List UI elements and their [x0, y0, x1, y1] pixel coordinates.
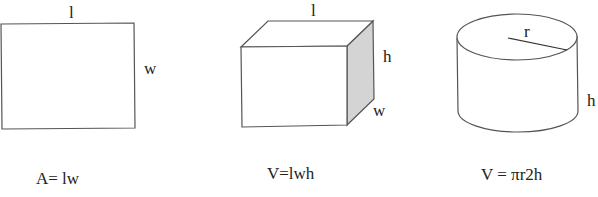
prism-width-label: w	[373, 101, 386, 120]
cylinder-figure: r h V = πr2h	[457, 14, 596, 184]
rectangle-width-label: w	[144, 59, 157, 78]
prism-figure: l h w V=lwh	[241, 1, 392, 183]
rectangle-area-formula: A= lw	[36, 169, 80, 188]
rectangle-figure: l w A= lw	[1, 3, 157, 188]
prism-length-label: l	[311, 1, 316, 20]
cylinder-volume-formula: V = πr2h	[481, 165, 543, 184]
cylinder-top-ellipse	[457, 14, 577, 60]
cylinder-height-label: h	[587, 91, 596, 110]
geometry-formulas-diagram: l w A= lw l h w V=lwh r h V = πr2h	[0, 0, 598, 197]
prism-height-label: h	[383, 47, 392, 66]
cylinder-radius-label: r	[524, 22, 530, 41]
rectangle-shape	[1, 23, 135, 129]
prism-volume-formula: V=lwh	[267, 164, 315, 183]
rectangle-length-label: l	[69, 3, 74, 22]
prism-front-face	[241, 46, 347, 127]
